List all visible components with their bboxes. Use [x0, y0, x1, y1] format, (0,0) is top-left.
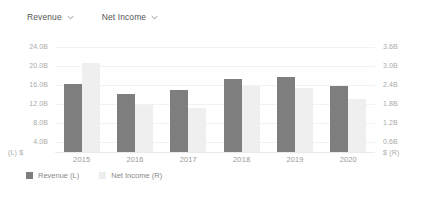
legend-swatch-net-income	[99, 172, 106, 179]
x-axis-tick-2019: 2019	[268, 155, 321, 164]
left-axis-tick: 12.0B	[29, 100, 48, 108]
bar-group	[268, 44, 321, 152]
left-axis-tick: 16.0B	[29, 81, 48, 89]
metric-selector-net-income[interactable]: Net Income	[99, 10, 161, 24]
bar-group	[55, 44, 108, 152]
bar-left-2016[interactable]	[117, 94, 135, 152]
bar-right-2015[interactable]	[82, 63, 100, 152]
x-axis-tick-2017: 2017	[162, 155, 215, 164]
right-axis-tick: 1.2B	[383, 119, 398, 127]
left-axis-unit-label: (L) $	[8, 149, 23, 156]
right-axis-tick: 0.6B	[383, 138, 398, 146]
bar-left-2017[interactable]	[170, 90, 188, 152]
bar-group	[162, 44, 215, 152]
metric-selector-revenue-label: Revenue	[27, 12, 62, 22]
right-axis-tick: 1.8B	[383, 100, 398, 108]
bar-right-2019[interactable]	[295, 88, 313, 152]
legend-item-net-income[interactable]: Net Income (R)	[99, 171, 162, 180]
right-axis-unit-label: $ (R)	[383, 149, 400, 156]
metric-selector-net-income-label: Net Income	[102, 12, 146, 22]
x-axis-tick-2016: 2016	[108, 155, 161, 164]
legend-swatch-revenue	[26, 172, 33, 179]
x-axis-tick-labels: 201520162017201820192020	[55, 155, 375, 164]
x-axis-tick-2015: 2015	[55, 155, 108, 164]
left-axis-tick: 8.0B	[33, 119, 48, 127]
chevron-down-icon	[151, 14, 158, 21]
left-axis-tick: 4.0B	[33, 138, 48, 146]
bar-group	[215, 44, 268, 152]
bar-right-2016[interactable]	[135, 105, 153, 152]
bar-left-2020[interactable]	[330, 86, 348, 153]
legend-label-net-income: Net Income (R)	[111, 171, 162, 180]
legend-item-revenue[interactable]: Revenue (L)	[26, 171, 79, 180]
metric-selector-bar: Revenue Net Income	[0, 0, 427, 34]
bar-left-2015[interactable]	[64, 84, 82, 153]
bar-right-2020[interactable]	[348, 99, 366, 152]
x-axis-tick-2020: 2020	[322, 155, 375, 164]
x-axis-tick-2018: 2018	[215, 155, 268, 164]
bar-right-2017[interactable]	[188, 108, 206, 152]
chart-legend: Revenue (L) Net Income (R)	[26, 171, 162, 180]
legend-label-revenue: Revenue (L)	[38, 171, 79, 180]
right-axis-tick: 2.4B	[383, 81, 398, 89]
left-axis-tick: 24.0B	[29, 43, 48, 51]
chart-bars	[55, 44, 375, 152]
bar-left-2019[interactable]	[277, 77, 295, 152]
right-axis-tick: 3.0B	[383, 62, 398, 70]
bar-group	[322, 44, 375, 152]
left-axis-tick: 20.0B	[29, 62, 48, 70]
metric-selector-revenue[interactable]: Revenue	[24, 10, 77, 24]
bar-group	[108, 44, 161, 152]
axis-baseline	[55, 152, 375, 153]
bar-left-2018[interactable]	[224, 79, 242, 152]
right-axis-tick: 3.6B	[383, 43, 398, 51]
chevron-down-icon	[67, 14, 74, 21]
bar-right-2018[interactable]	[242, 86, 260, 153]
